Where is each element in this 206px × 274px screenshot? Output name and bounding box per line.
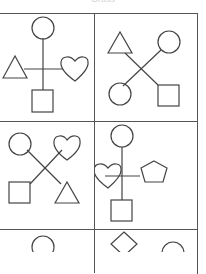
- circle-icon: [111, 125, 133, 147]
- heart-icon: [61, 57, 88, 81]
- diamond-icon: [111, 232, 137, 252]
- diagonal-connector-2: [123, 50, 161, 86]
- cell-r2c2[interactable]: [95, 122, 197, 229]
- square-icon: [9, 182, 30, 203]
- circle-icon: [162, 242, 184, 252]
- cell-r3c2[interactable]: [95, 230, 197, 252]
- circle-icon: [32, 17, 54, 39]
- cell-r3c1[interactable]: [0, 230, 94, 252]
- triangle-icon: [3, 56, 27, 78]
- triangle-icon: [108, 32, 132, 53]
- diagonal-connector-2: [30, 150, 62, 184]
- caption-text: Cross: [0, 0, 206, 4]
- square-icon: [111, 200, 132, 221]
- triangle-icon: [55, 182, 79, 203]
- cell-r2c1[interactable]: [0, 122, 94, 229]
- cell-r1c1[interactable]: [0, 14, 94, 121]
- square-icon: [32, 90, 53, 112]
- cell-r1c2[interactable]: [95, 14, 197, 121]
- diagonal-connector-1: [27, 150, 61, 184]
- pentagon-icon: [141, 161, 167, 182]
- circle-icon: [9, 133, 31, 155]
- square-icon: [158, 85, 179, 106]
- circle-icon: [109, 83, 131, 105]
- heart-icon: [54, 136, 80, 160]
- circle-icon: [32, 236, 54, 252]
- circle-icon: [158, 31, 180, 53]
